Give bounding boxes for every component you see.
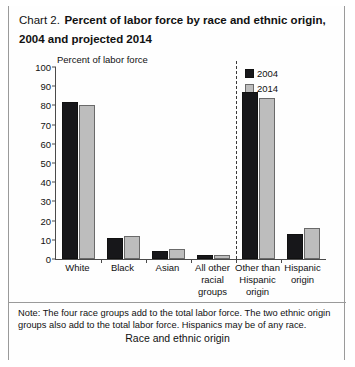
chart-footnote: Note: The four race groups add to the to…: [18, 307, 338, 331]
bar-2014-white: [79, 105, 95, 259]
chart-title-main: Percent of labor force by race and ethni…: [19, 14, 326, 45]
bar-2004-black: [107, 238, 123, 259]
chart-title: Chart 2. Percent of labor force by race …: [19, 10, 337, 47]
bar-2004-all-other-racial-groups: [197, 255, 213, 259]
race-ethnicity-divider: [236, 61, 237, 259]
y-axis-tick-mark: [52, 239, 56, 240]
y-axis-tick-mark: [52, 182, 56, 183]
y-axis-tick-mark: [52, 201, 56, 202]
x-axis-category-label: Hispanicorigin: [280, 262, 325, 286]
y-axis-tick-mark: [52, 124, 56, 125]
y-axis-tick-mark: [52, 143, 56, 144]
bar-2004-hispanic-origin: [287, 234, 303, 259]
category-label-line: Hispanic: [235, 274, 280, 286]
bar-2014-hispanic-origin: [304, 228, 320, 259]
category-label-line: Asian: [145, 262, 190, 274]
y-axis-tick-mark: [52, 67, 56, 68]
y-axis-tick-mark: [52, 86, 56, 87]
plot-wrapper: Percent of labor force 2004 2014 0102030…: [9, 54, 346, 279]
y-axis-tick-mark: [52, 163, 56, 164]
y-axis-tick-label: 90: [11, 81, 56, 92]
category-label-line: origin: [280, 274, 325, 286]
category-label-line: Other than: [235, 262, 280, 274]
category-label-line: groups: [190, 286, 235, 298]
y-axis-tick-label: 0: [11, 254, 56, 265]
bar-2014-asian: [169, 249, 185, 259]
x-axis-category-label: Black: [100, 262, 145, 274]
chart-title-prefix: Chart 2.: [19, 14, 60, 26]
y-axis-tick-label: 20: [11, 215, 56, 226]
x-axis-title: Race and ethnic origin: [9, 332, 346, 344]
y-axis-tick-mark: [52, 105, 56, 106]
y-axis-tick-mark: [52, 259, 56, 260]
bar-2014-all-other-racial-groups: [214, 255, 230, 259]
bar-2014-other-than-hispanic-origin: [259, 98, 275, 259]
y-axis-tick-label: 30: [11, 196, 56, 207]
x-axis-category-label: White: [55, 262, 100, 274]
y-axis-tick-label: 80: [11, 100, 56, 111]
x-axis-category-label: Asian: [145, 262, 190, 274]
footnote-divider: [9, 302, 346, 303]
category-label-line: Black: [100, 262, 145, 274]
x-axis-category-label: All otherracialgroups: [190, 262, 235, 298]
bar-2004-asian: [152, 251, 168, 259]
y-axis-tick-label: 60: [11, 138, 56, 149]
x-axis-category-label: Other thanHispanicorigin: [235, 262, 280, 298]
y-axis-tick-label: 40: [11, 177, 56, 188]
category-label-line: racial: [190, 274, 235, 286]
category-label-line: White: [55, 262, 100, 274]
y-axis-tick-label: 50: [11, 158, 56, 169]
y-axis-tick-label: 10: [11, 234, 56, 245]
y-axis-tick-label: 70: [11, 119, 56, 130]
y-axis-title: Percent of labor force: [57, 54, 148, 65]
y-axis-tick-label: 100: [11, 62, 56, 73]
chart-card: Chart 2. Percent of labor force by race …: [8, 6, 345, 360]
y-axis-tick-mark: [52, 220, 56, 221]
category-label-line: origin: [235, 286, 280, 298]
bar-2014-black: [124, 236, 140, 259]
category-label-line: Hispanic: [280, 262, 325, 274]
bar-2004-other-than-hispanic-origin: [242, 92, 258, 259]
category-label-line: All other: [190, 262, 235, 274]
plot-area: 0102030405060708090100: [55, 67, 326, 260]
bar-2004-white: [62, 102, 78, 259]
